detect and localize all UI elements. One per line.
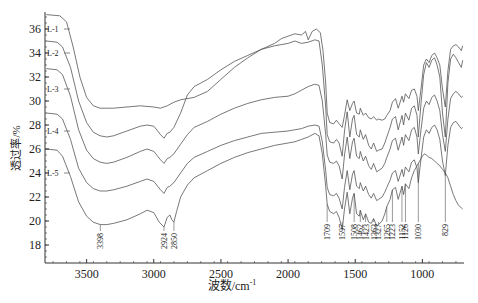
x-tick-label: 3000 [142, 267, 166, 281]
y-tick-label: 32 [29, 70, 41, 84]
x-tick-label: 2000 [276, 267, 300, 281]
curve-l-1 [46, 15, 462, 128]
peak-label: 2850 [170, 233, 179, 249]
peak-label: 1709 [323, 224, 332, 240]
peak-label: 1030 [414, 224, 423, 240]
curve-l-2 [46, 40, 462, 156]
series-label-l-1: L-1 [47, 25, 59, 34]
y-tick-label: 24 [29, 166, 41, 180]
curve-l-5 [46, 133, 462, 229]
series-label-l-4: L-4 [47, 127, 59, 136]
x-tick-label: 3500 [75, 267, 99, 281]
y-tick-label: 30 [29, 94, 41, 108]
peak-label: 829 [441, 224, 450, 236]
x-tick-label: 1500 [343, 267, 367, 281]
x-axis-label-superscript: -1 [250, 278, 257, 287]
x-tick-label: 1000 [410, 267, 434, 281]
y-tick-label: 18 [29, 238, 41, 252]
y-tick-label: 20 [29, 214, 41, 228]
x-axis-label: 波数/cm-1 [208, 278, 257, 293]
series-label-l-5: L-5 [47, 169, 59, 178]
peak-label: 2924 [160, 233, 169, 249]
ftir-spectrum-chart: 3398292428501709159715081462142313631327… [0, 0, 478, 303]
y-ticks: 18202224262830323436 [29, 17, 49, 257]
peak-label: 1223 [388, 224, 397, 240]
peak-label: 3398 [96, 233, 105, 249]
spectrum-curves [46, 15, 462, 230]
y-tick-label: 34 [29, 46, 41, 60]
series-label-l-3: L-3 [47, 85, 59, 94]
series-label-l-2: L-2 [47, 49, 59, 58]
y-tick-label: 28 [29, 118, 41, 132]
curve-l-3 [46, 69, 462, 179]
peak-label: 1126 [401, 224, 410, 240]
y-tick-label: 26 [29, 142, 41, 156]
series-labels: L-1L-2L-3L-4L-5 [47, 25, 70, 178]
peak-label: 1597 [338, 224, 347, 240]
y-axis-label: 透过率/% [9, 125, 22, 170]
curve-l-4 [46, 113, 462, 209]
y-tick-label: 22 [29, 190, 41, 204]
y-tick-label: 36 [29, 22, 41, 36]
